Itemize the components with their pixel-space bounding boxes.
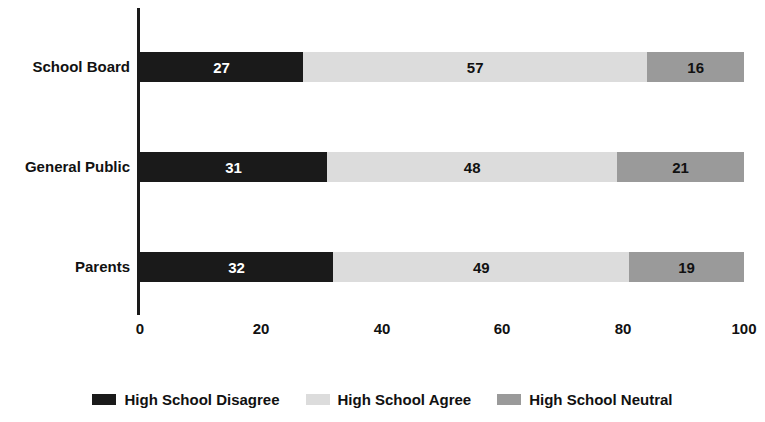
- legend-item-neutral[interactable]: High School Neutral: [497, 391, 672, 408]
- x-axis-tick-labels: 0 20 40 60 80 100: [140, 320, 744, 344]
- legend-swatch-agree-icon: [306, 394, 330, 405]
- bar-value-parents-neutral: 19: [678, 260, 695, 275]
- bar-row-school-board: 27 57 16: [140, 52, 744, 82]
- bar-value-general-public-agree: 48: [464, 160, 481, 175]
- plot-area: 27 57 16 31 48 21 32: [140, 8, 744, 315]
- legend-item-agree[interactable]: High School Agree: [306, 391, 472, 408]
- bar-value-parents-disagree: 32: [228, 260, 245, 275]
- category-label-parents: Parents: [0, 252, 130, 282]
- x-tick-100: 100: [731, 320, 756, 337]
- category-label-general-public: General Public: [0, 152, 130, 182]
- x-tick-80: 80: [615, 320, 632, 337]
- bar-segment-parents-agree[interactable]: 49: [333, 252, 629, 282]
- legend-swatch-neutral-icon: [497, 394, 521, 405]
- bar-segment-general-public-disagree[interactable]: 31: [140, 152, 327, 182]
- chart-legend: High School Disagree High School Agree H…: [0, 388, 765, 410]
- bar-segment-parents-disagree[interactable]: 32: [140, 252, 333, 282]
- x-tick-60: 60: [494, 320, 511, 337]
- x-tick-20: 20: [253, 320, 270, 337]
- bar-value-school-board-disagree: 27: [213, 60, 230, 75]
- bar-segment-school-board-neutral[interactable]: 16: [647, 52, 744, 82]
- legend-label-disagree: High School Disagree: [124, 391, 279, 408]
- legend-swatch-disagree-icon: [92, 394, 116, 405]
- category-label-school-board: School Board: [0, 52, 130, 82]
- bar-value-general-public-disagree: 31: [225, 160, 242, 175]
- bar-value-school-board-agree: 57: [467, 60, 484, 75]
- y-axis-category-labels: School Board General Public Parents: [0, 8, 130, 315]
- bar-segment-school-board-disagree[interactable]: 27: [140, 52, 303, 82]
- bar-segment-general-public-agree[interactable]: 48: [327, 152, 617, 182]
- bar-segment-parents-neutral[interactable]: 19: [629, 252, 744, 282]
- stacked-bar-chart: School Board General Public Parents 27 5…: [0, 0, 765, 422]
- bar-row-general-public: 31 48 21: [140, 152, 744, 182]
- legend-label-agree: High School Agree: [338, 391, 472, 408]
- x-tick-40: 40: [374, 320, 391, 337]
- bar-value-school-board-neutral: 16: [687, 60, 704, 75]
- bar-segment-general-public-neutral[interactable]: 21: [617, 152, 744, 182]
- bar-value-parents-agree: 49: [473, 260, 490, 275]
- legend-label-neutral: High School Neutral: [529, 391, 672, 408]
- bar-segment-school-board-agree[interactable]: 57: [303, 52, 647, 82]
- bar-row-parents: 32 49 19: [140, 252, 744, 282]
- bar-value-general-public-neutral: 21: [672, 160, 689, 175]
- legend-item-disagree[interactable]: High School Disagree: [92, 391, 279, 408]
- x-tick-0: 0: [136, 320, 144, 337]
